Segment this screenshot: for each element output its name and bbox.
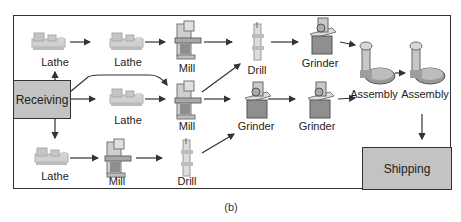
lathe-icon (108, 86, 146, 108)
mill-icon (104, 138, 132, 178)
label-lathe: Lathe (114, 56, 142, 68)
label-grinder: Grinder (238, 120, 275, 132)
figure-caption: (b) (224, 201, 237, 213)
drill-icon (180, 138, 194, 178)
label-drill: Drill (248, 64, 267, 76)
label-assembly: Assembly (401, 88, 449, 100)
label-mill: Mill (179, 120, 196, 132)
assembly-icon (406, 40, 446, 88)
arrow-mill2-drill1 (202, 64, 240, 92)
receiving-label: Receiving (16, 93, 69, 107)
label-lathe: Lathe (41, 170, 69, 182)
lathe-icon (30, 30, 68, 52)
label-assembly: Assembly (350, 88, 398, 100)
shipping-box: Shipping (362, 147, 452, 190)
lathe-icon (33, 145, 71, 167)
assembly-icon (356, 40, 396, 88)
drill-icon (251, 22, 265, 62)
label-mill: Mill (109, 175, 126, 187)
grinder-icon (300, 80, 336, 120)
mill-icon (174, 80, 202, 120)
receiving-box: Receiving (13, 80, 71, 119)
label-grinder: Grinder (299, 120, 336, 132)
mill-icon (174, 20, 202, 60)
arrow-grinder1-assembly1 (340, 42, 355, 45)
label-drill: Drill (178, 175, 197, 187)
arrow-drill2-grinder2 (202, 134, 234, 153)
label-mill: Mill (179, 62, 196, 74)
process-layout-diagram: Receiving Shipping (0, 0, 461, 222)
label-lathe: Lathe (41, 56, 69, 68)
shipping-label: Shipping (384, 162, 431, 176)
grinder-icon (302, 16, 338, 56)
lathe-icon (108, 30, 146, 52)
grinder-icon (237, 80, 273, 120)
label-grinder: Grinder (302, 57, 339, 69)
label-lathe: Lathe (114, 114, 142, 126)
